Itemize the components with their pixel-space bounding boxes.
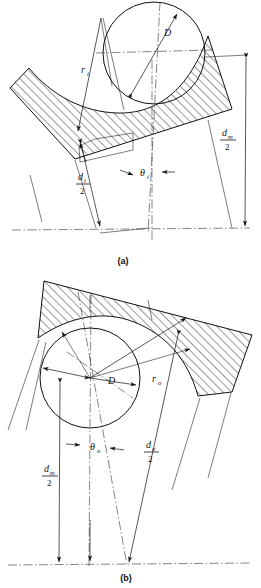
- ball-horizontal-centerline-a: [96, 50, 212, 53]
- ball-radius-dim-b: [43, 368, 90, 378]
- pitch-diameter-label-b: d m 2: [42, 463, 58, 488]
- panel-b-caption: (b): [120, 573, 132, 583]
- panel-a: D r i d i 2 θ i d m 2: [10, 2, 250, 266]
- ring-guide-left-b1: [8, 340, 39, 430]
- race-diameter-ext-a: [100, 228, 150, 233]
- contact-leader-upper-b: [62, 332, 90, 378]
- angle-arrow-left-a: [120, 170, 133, 175]
- svg-text:m: m: [228, 133, 233, 140]
- outer-ring-outline: [38, 281, 252, 396]
- groove-radius-leader-a2: [103, 18, 124, 110]
- ring-guide-right-b1: [172, 398, 200, 490]
- pitch-diameter-dim-b: [59, 383, 60, 562]
- ring-guide-left-b2: [26, 342, 46, 430]
- race-diameter-label-b: d o 2: [144, 439, 159, 464]
- svg-text:m: m: [50, 469, 55, 476]
- groove-radius-label-a: r: [81, 64, 85, 75]
- bearing-geometry-figure: D r i d i 2 θ i d m 2: [0, 0, 261, 588]
- ball-diameter-dim-a: [132, 14, 177, 93]
- svg-text:o: o: [152, 445, 156, 452]
- bearing-axis-b: [8, 563, 252, 565]
- pitch-diameter-dim-a: [245, 58, 246, 226]
- svg-text:i: i: [84, 177, 86, 184]
- tilt-centerline-b: [78, 292, 127, 565]
- ring-guide-left-a: [30, 175, 42, 222]
- svg-text:2: 2: [80, 186, 85, 196]
- ball-diameter-label-a: D: [163, 27, 172, 38]
- angle-arrow-left-b: [66, 444, 80, 445]
- angle-label-a: θ i: [140, 167, 149, 180]
- groove-radius-sub-b: o: [158, 379, 162, 386]
- ring-guide-right-b2: [208, 393, 231, 478]
- svg-text:θ: θ: [140, 167, 145, 178]
- svg-text:i: i: [147, 173, 149, 180]
- panel-b: D r o d o 2 θ o d m 2: [8, 281, 252, 583]
- groove-radius-leader-b: [90, 318, 186, 378]
- svg-text:θ: θ: [90, 441, 95, 452]
- figure-canvas: D r i d i 2 θ i d m 2: [0, 0, 261, 588]
- ball-diameter-label-b: D: [107, 375, 116, 386]
- groove-radius-label-b: r: [152, 373, 156, 384]
- groove-radius-sub-a: i: [87, 70, 89, 77]
- svg-text:2: 2: [225, 142, 230, 152]
- svg-text:2: 2: [47, 478, 52, 488]
- pitch-diameter-label-a: d m 2: [220, 127, 236, 152]
- angle-arrow-right-b: [110, 448, 124, 450]
- angle-label-b: θ o: [90, 441, 101, 454]
- panel-a-caption: (a): [118, 256, 129, 266]
- svg-text:o: o: [97, 447, 101, 454]
- svg-text:2: 2: [148, 454, 153, 464]
